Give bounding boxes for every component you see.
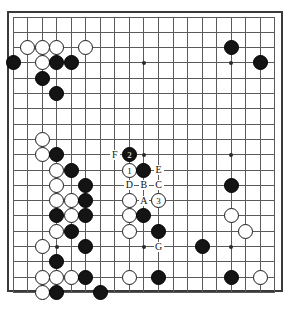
- star-point: [229, 245, 233, 249]
- stone-white: [35, 239, 50, 254]
- stone-white: [238, 224, 253, 239]
- stone-white: [49, 224, 64, 239]
- point-marker-c: C: [154, 180, 164, 190]
- star-point: [142, 153, 146, 157]
- stone-black: [35, 71, 50, 86]
- stone-black: [64, 163, 79, 178]
- stone-black: [224, 178, 239, 193]
- stone-white: [122, 193, 137, 208]
- stone-black: [195, 239, 210, 254]
- goban: 213 FEDBCAG: [7, 11, 283, 292]
- star-point: [142, 61, 146, 65]
- stone-black: [78, 270, 93, 285]
- star-point: [229, 153, 233, 157]
- stone-black-2: 2: [122, 147, 137, 162]
- stone-black: [151, 270, 166, 285]
- stone-white: [253, 270, 268, 285]
- star-point: [55, 245, 59, 249]
- stone-white: [35, 132, 50, 147]
- stone-white: [35, 147, 50, 162]
- stone-white: [49, 178, 64, 193]
- stone-white: [122, 270, 137, 285]
- stone-black: [151, 224, 166, 239]
- stone-black: [93, 285, 108, 300]
- star-point: [142, 245, 146, 249]
- stone-white: [64, 208, 79, 223]
- stone-white: [122, 224, 137, 239]
- stone-white: [35, 270, 50, 285]
- stone-white: [35, 40, 50, 55]
- move-number: 1: [123, 167, 136, 176]
- stone-white-3: 3: [151, 193, 166, 208]
- point-marker-g: G: [154, 242, 164, 252]
- stone-black: [136, 163, 151, 178]
- move-number: 3: [152, 197, 165, 206]
- stone-white: [49, 163, 64, 178]
- stone-white: [35, 285, 50, 300]
- stone-black: [6, 55, 21, 70]
- point-marker-a: A: [139, 196, 149, 206]
- go-diagram: 213 FEDBCAG: [0, 0, 290, 309]
- point-marker-f: F: [110, 150, 120, 160]
- stone-black: [78, 178, 93, 193]
- stone-white: [35, 55, 50, 70]
- stone-white: [49, 270, 64, 285]
- point-marker-e: E: [154, 165, 164, 175]
- point-marker-d: D: [124, 180, 134, 190]
- stone-black: [64, 55, 79, 70]
- point-marker-b: B: [139, 180, 149, 190]
- stone-black: [49, 285, 64, 300]
- stone-black: [224, 270, 239, 285]
- move-number: 2: [123, 151, 136, 160]
- stone-white: [64, 270, 79, 285]
- stone-white: [64, 193, 79, 208]
- stone-black: [224, 40, 239, 55]
- stone-black: [64, 224, 79, 239]
- stone-white-1: 1: [122, 163, 137, 178]
